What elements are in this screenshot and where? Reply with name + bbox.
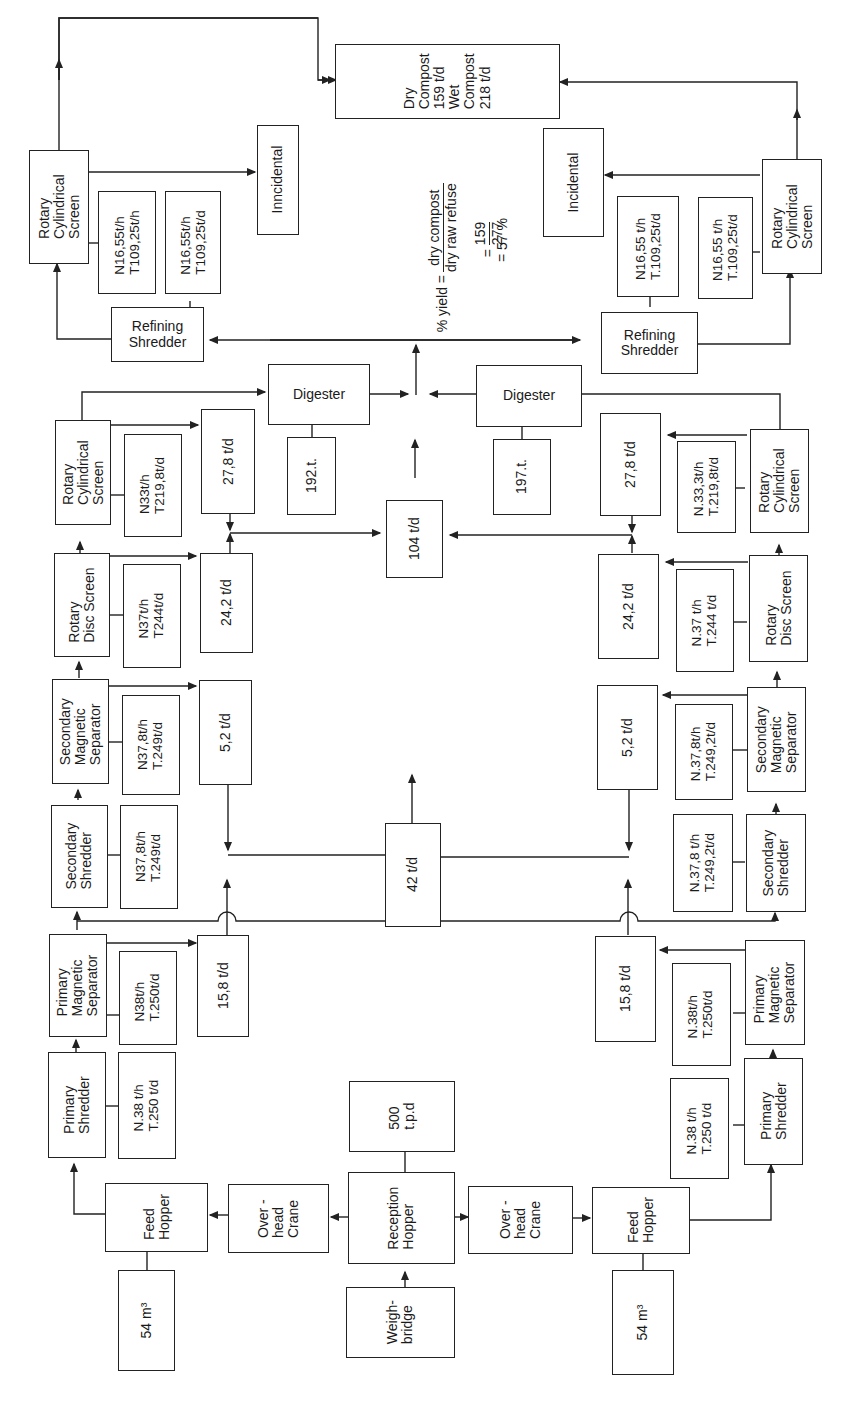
right-output-15-8: 15,8 t/d [595,936,656,1042]
left-output-5-2: 5,2 t/d [199,680,252,785]
yield-numerator: dry compost [427,183,443,272]
right-digester-stats: 197.t. [493,439,551,515]
right-primary-shredder: Primary Shredder [744,1058,803,1165]
left-rotary-cylindrical-stats: N33t/h T219,8t/d [124,434,182,537]
left-rotary-cylindrical-screen: Rotary Cylindrical Screen [55,420,111,525]
left-secondary-shredder-stats: N37,8t/h T.249t/d [120,805,178,909]
yield-denominator: dry raw refuse [444,183,459,272]
left-incidental: Inncidental [257,125,299,235]
right-final-rotary-cylindrical-screen: Rotary Cylindrical Screen [762,159,822,274]
right-output-24-2: 24,2 t/d [598,554,659,659]
right-feed-hopper: Feed Hopper [592,1187,690,1254]
left-feed-volume: 54 m³ [118,1270,175,1371]
yield-fraction-num: 159 [473,222,489,245]
process-flow-diagram: Dry Compost 159 t/d Wet Compost 218 t/d … [0,0,849,1406]
left-digester: Digester [268,364,370,425]
right-overhead-crane: Over - head Crane [468,1186,573,1254]
central-output-42: 42 t/d [385,823,441,927]
left-output-27-8: 27,8 t/d [201,409,255,514]
left-refining-shredder: Refining Shredder [111,307,204,362]
right-feed-volume: 54 m³ [612,1270,674,1375]
right-secondary-shredder-stats: N.37,8 t/h T.249,2t/d [673,814,733,912]
left-primary-magnetic-stats: N38t/h T.250t/d [119,951,177,1045]
right-primary-magnetic-stats: N.38t/h T.250t/d [672,963,731,1066]
left-primary-magnetic-separator: Primary Magnetic Separator [49,934,107,1037]
left-secondary-shredder: Secondary Shredder [51,805,108,908]
right-rotary-cylindrical-screen: Rotary Cylindrical Screen [750,429,809,533]
left-final-screen-stats: N16,55t/h T109,25t/h [98,191,156,294]
left-rotary-disc-screen: Rotary Disc Screen [54,553,110,657]
right-rotary-cylindrical-stats: N.33,3t/h T.219,8t/d [677,441,736,533]
right-secondary-shredder: Secondary Shredder [746,814,806,912]
left-rotary-disc-stats: N37t/h T244t/d [123,564,181,668]
left-secondary-magnetic-separator: Secondary Magnetic Separator [52,679,109,784]
left-output-24-2: 24,2 t/d [200,553,253,653]
left-refining-stats: N16,55t/h T109,25t/d [165,191,221,294]
right-output-27-8: 27,8 t/d [600,413,661,516]
right-rotary-disc-stats: N.37 t/h T.244 t/d [676,569,734,672]
left-output-15-8: 15,8 t/d [197,935,249,1037]
left-digester-stats: 192.t. [287,437,336,515]
central-output-104: 104 t/d [386,500,443,578]
right-secondary-magnetic-separator: Secondary Magnetic Separator [747,687,806,792]
left-overhead-crane: Over - head Crane [228,1184,329,1253]
right-final-screen-stats: N16,55 t/h T.109,25t/d [698,197,753,299]
yield-formula: % yield =dry compostdry raw refuse [412,100,459,340]
reception-hopper: Reception Hopper [348,1172,455,1264]
capacity-500-tpd: 500 t.p.d [349,1081,455,1152]
left-final-rotary-cylindrical-screen: Rotary Cylindrical Screen [29,150,89,264]
left-primary-shredder-stats: N.38 t/h T.250 t/d [118,1052,176,1159]
left-primary-shredder: Primary Shredder [48,1052,106,1158]
right-refining-shredder: Refining Shredder [601,312,698,374]
weighbridge: Weigh- bridge [346,1287,455,1358]
right-primary-magnetic-separator: Primary Magnetic Separator [745,940,805,1045]
right-primary-shredder-stats: N.38 t/h T.250 t/d [670,1078,729,1179]
right-refining-stats: N16,55 t/h T.109,25t/d [617,196,679,297]
left-secondary-magnetic-stats: N37,8t/h T.249t/d [122,695,180,795]
right-digester: Digester [476,365,582,427]
right-incidental: Incidental [543,128,604,237]
yield-label: % yield = [434,275,450,332]
left-feed-hopper: Feed Hopper [105,1183,208,1252]
right-rotary-disc-screen: Rotary Disc Screen [749,555,808,662]
right-output-5-2: 5,2 t/d [597,685,658,790]
right-secondary-magnetic-stats: N.37,8t/h T.249,2t/d [675,704,733,800]
yield-result: = 57 % [495,218,510,262]
